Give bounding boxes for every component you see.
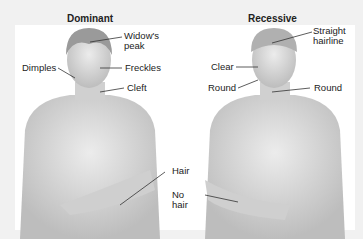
dominant-title: Dominant [67, 13, 113, 24]
label-freckles: Freckles [125, 63, 161, 73]
label-round-chin: Round [314, 83, 342, 93]
label-dimples: Dimples [22, 63, 56, 73]
label-round-cheek: Round [208, 83, 236, 93]
label-cleft: Cleft [127, 83, 147, 93]
recessive-figure [205, 28, 345, 239]
label-no-hair: Nohair [172, 190, 188, 210]
label-clear: Clear [211, 62, 234, 72]
label-widows-peak: Widow'speak [124, 31, 159, 51]
dominant-figure [20, 28, 160, 239]
recessive-title: Recessive [248, 13, 297, 24]
label-hair: Hair [172, 166, 189, 176]
label-straight-hairline: Straighthairline [313, 26, 346, 46]
